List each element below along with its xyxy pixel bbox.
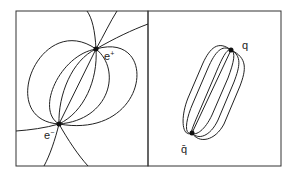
quark-label: q xyxy=(242,39,248,51)
positive-charge-dot xyxy=(94,47,99,52)
quark-dot xyxy=(229,48,234,53)
right-panel-frame xyxy=(148,11,281,166)
left-panel-frame xyxy=(16,11,148,166)
dipole-field-lines xyxy=(16,11,148,166)
negative-charge-dot xyxy=(57,122,62,127)
flux-tube-lines xyxy=(183,46,244,140)
antiquark-dot xyxy=(190,131,195,136)
figure-canvas: e+ e− q q̄ xyxy=(0,0,293,175)
negative-charge-label: e− xyxy=(44,129,54,141)
positive-charge-label: e+ xyxy=(104,50,114,62)
antiquark-label: q̄ xyxy=(181,143,187,155)
